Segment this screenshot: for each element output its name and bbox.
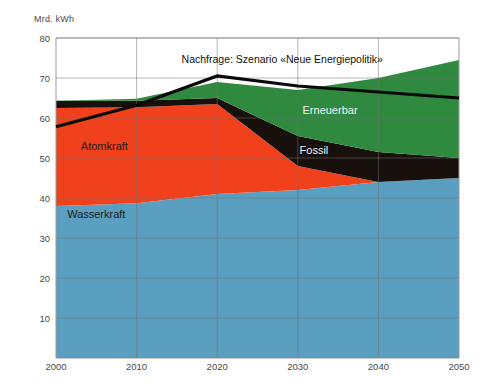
series-label-atomkraft: Atomkraft [81, 140, 128, 152]
x-axis-tick: 2000 [45, 361, 66, 372]
series-label-erneuerbar: Erneuerbar [303, 104, 358, 116]
series-label-wasserkraft: Wasserkraft [67, 208, 125, 220]
demand-line-label: Nachfrage: Szenario «Neue Energiepolitik… [182, 53, 383, 65]
series-label-fossil: Fossil [300, 144, 329, 156]
x-axis-tick: 2050 [448, 361, 469, 372]
x-axis-tick: 2010 [126, 361, 147, 372]
x-axis-tick: 2020 [207, 361, 228, 372]
chart-container: Mrd. kWh 8070605040302010 WasserkraftAto… [0, 0, 480, 390]
x-axis-tick: 2030 [287, 361, 308, 372]
x-axis-tick: 2040 [368, 361, 389, 372]
chart-overlay-labels: WasserkraftAtomkraftFossilErneuerbarNach… [0, 0, 480, 390]
